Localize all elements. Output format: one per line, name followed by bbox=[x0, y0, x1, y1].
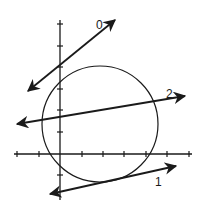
y-axis bbox=[57, 20, 63, 200]
line-1-label: 1 bbox=[155, 175, 162, 189]
line-2-label: 2 bbox=[166, 87, 173, 101]
x-axis bbox=[14, 151, 192, 157]
line-0-label: 0 bbox=[96, 18, 103, 32]
coordinate-diagram: 0 2 1 bbox=[0, 0, 205, 211]
line-2 bbox=[17, 96, 185, 124]
